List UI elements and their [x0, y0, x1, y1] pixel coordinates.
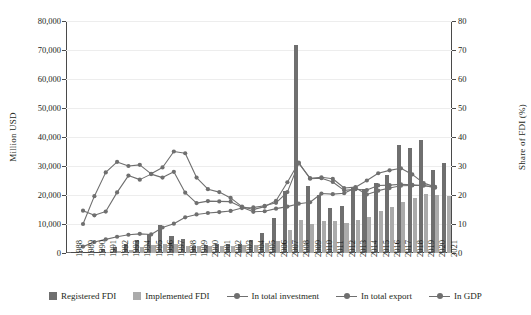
x-axis-tick-label: 1988	[75, 240, 84, 257]
legend-item[interactable]: In GDP	[429, 291, 482, 301]
y-axis-left-tick-label: 50,000	[1, 104, 61, 113]
line-marker	[308, 200, 312, 204]
line-marker	[206, 211, 210, 215]
line-marker	[217, 210, 221, 214]
line-marker	[194, 176, 198, 180]
legend-line-swatch-icon	[336, 292, 357, 301]
line-marker	[297, 161, 301, 165]
x-axis-tick-label: 2003	[245, 240, 254, 257]
y-axis-right-tick-label: 30	[458, 162, 498, 171]
line-marker	[183, 151, 187, 155]
line-marker	[229, 196, 233, 200]
x-axis-tick-label: 2009	[314, 240, 323, 257]
line-marker	[229, 209, 233, 213]
line-marker	[331, 192, 335, 196]
line-marker	[263, 204, 267, 208]
chart-legend: Registered FDIImplemented FDIIn total in…	[0, 291, 531, 301]
x-axis-tick-label: 1989	[87, 240, 96, 257]
line-marker	[274, 207, 278, 211]
line-marker	[194, 212, 198, 216]
line-marker	[115, 190, 119, 194]
line-marker	[160, 165, 164, 169]
line-marker	[285, 205, 289, 209]
y-axis-right-tick-label: 70	[458, 46, 498, 55]
line-marker	[319, 175, 323, 179]
x-axis-tick-label: 2020	[438, 240, 447, 257]
axis-tick	[452, 108, 456, 109]
line-marker	[433, 185, 437, 189]
line-marker	[172, 149, 176, 153]
line-marker	[138, 178, 142, 182]
x-axis-tick-label: 1993	[132, 240, 141, 257]
axis-tick	[452, 79, 456, 80]
y-axis-right-tick-label: 10	[458, 220, 498, 229]
line-marker	[365, 192, 369, 196]
line-marker	[229, 200, 233, 204]
axis-tick	[452, 195, 456, 196]
line-marker	[399, 166, 403, 170]
line-marker	[376, 183, 380, 187]
line-marker	[251, 205, 255, 209]
legend-line-swatch-icon	[429, 292, 450, 301]
x-axis-tick-label: 1991	[109, 240, 118, 257]
legend-item[interactable]: In total export	[336, 291, 412, 301]
x-axis-tick-label: 2021	[450, 240, 459, 257]
x-axis-tick-label: 2011	[336, 240, 345, 257]
line-marker	[104, 170, 108, 174]
line-marker	[172, 222, 176, 226]
line-marker	[183, 215, 187, 219]
legend-label: Implemented FDI	[145, 291, 209, 301]
x-axis-tick-label: 1999	[200, 240, 209, 257]
line-marker	[126, 233, 130, 237]
line-marker	[104, 209, 108, 213]
line-marker	[160, 225, 164, 229]
y-axis-right-tick-label: 0	[458, 249, 498, 258]
line-marker	[365, 188, 369, 192]
line-marker	[115, 235, 119, 239]
x-axis-tick-label: 2006	[280, 240, 289, 257]
line-marker	[92, 213, 96, 217]
legend-item[interactable]: Implemented FDI	[133, 291, 209, 301]
axis-tick	[452, 21, 456, 22]
line-marker	[240, 206, 244, 210]
y-axis-left-tick-label: 10,000	[1, 220, 61, 229]
y-axis-right-tick-label: 40	[458, 133, 498, 142]
line-series	[83, 152, 435, 225]
line-marker	[126, 164, 130, 168]
line-marker	[319, 191, 323, 195]
axis-tick	[452, 166, 456, 167]
line-marker	[81, 209, 85, 213]
y-axis-right-title: Share of FDI (%)	[517, 92, 527, 182]
legend-item[interactable]: Registered FDI	[49, 291, 116, 301]
x-axis-tick-label: 2017	[404, 240, 413, 257]
x-axis-tick-label: 2019	[427, 240, 436, 257]
x-axis-tick-label: 1992	[121, 240, 130, 257]
line-marker	[376, 189, 380, 193]
x-axis-tick-label: 2012	[348, 240, 357, 257]
y-axis-left-tick-label: 40,000	[1, 133, 61, 142]
x-axis-tick-label: 2016	[393, 240, 402, 257]
y-axis-right-tick-label: 50	[458, 104, 498, 113]
axis-tick	[62, 253, 66, 254]
x-axis-tick-label: 2000	[211, 240, 220, 257]
line-marker	[172, 170, 176, 174]
line-marker	[217, 190, 221, 194]
line-marker	[126, 173, 130, 177]
line-marker	[376, 171, 380, 175]
line-marker	[149, 232, 153, 236]
x-axis-tick-label: 2001	[223, 240, 232, 257]
y-axis-right-tick-label: 20	[458, 191, 498, 200]
fdi-chart: Million USD Share of FDI (%) 0010,000102…	[0, 0, 531, 315]
axis-tick	[452, 137, 456, 138]
line-marker	[274, 201, 278, 205]
x-axis-tick-label: 2014	[370, 240, 379, 257]
line-marker	[331, 177, 335, 181]
x-axis-tick-label: 1997	[177, 240, 186, 257]
y-axis-right-tick-label: 80	[458, 17, 498, 26]
line-marker	[285, 190, 289, 194]
legend-item[interactable]: In total investment	[227, 291, 320, 301]
legend-line-swatch-icon	[227, 292, 248, 301]
line-marker	[285, 180, 289, 184]
line-marker	[297, 202, 301, 206]
line-marker	[206, 199, 210, 203]
